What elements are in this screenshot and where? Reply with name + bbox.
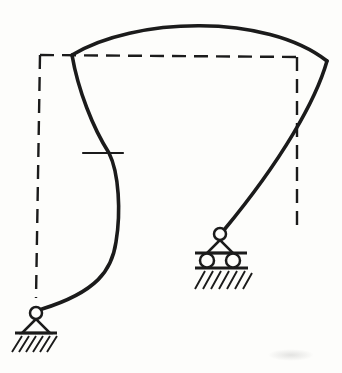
pin-support-hatching xyxy=(12,336,57,352)
roller-support xyxy=(195,228,252,289)
roller-support-triangle xyxy=(207,240,233,253)
figure-canvas xyxy=(0,0,342,373)
deflected-frame-shape xyxy=(42,26,327,309)
roller-support-roller-circles xyxy=(200,254,240,268)
roller-support-hatching xyxy=(195,271,252,289)
pin-support-triangle xyxy=(22,319,50,333)
roller-support-hinge-circle xyxy=(214,228,226,240)
deflected-right-column-curve xyxy=(224,61,327,230)
undeformed-left-column-dashed-line xyxy=(36,55,40,298)
frame-buckling-diagram xyxy=(0,0,342,373)
pin-support-hinge-circle xyxy=(30,307,42,319)
undeformed-beam-dashed-line xyxy=(40,55,297,57)
deflected-left-column-curve xyxy=(42,55,119,309)
undeformed-frame-outline xyxy=(36,55,297,298)
pin-support xyxy=(12,307,57,352)
